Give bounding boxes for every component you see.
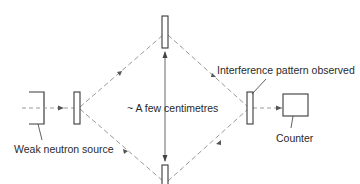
counter-leader-line <box>291 116 293 128</box>
source-label: Weak neutron source <box>14 144 114 155</box>
interference-label: Interference pattern observed <box>217 65 355 76</box>
bottom-mirror-crystal <box>162 165 168 184</box>
distance-label-text: ~ A few centimetres <box>127 102 218 114</box>
analyser-crystal <box>247 92 253 124</box>
counter-box <box>283 94 308 116</box>
source-leader-line <box>38 124 42 140</box>
distance-label: ~ A few centimetres <box>127 103 218 114</box>
neutron-interferometer-diagram <box>0 0 360 184</box>
output-beam <box>253 106 282 111</box>
beam-splitter-crystal <box>74 92 80 124</box>
counter-label: Counter <box>276 133 313 144</box>
interference-leader-line <box>252 79 266 94</box>
top-mirror-crystal <box>162 16 168 48</box>
incoming-beam <box>22 106 74 111</box>
